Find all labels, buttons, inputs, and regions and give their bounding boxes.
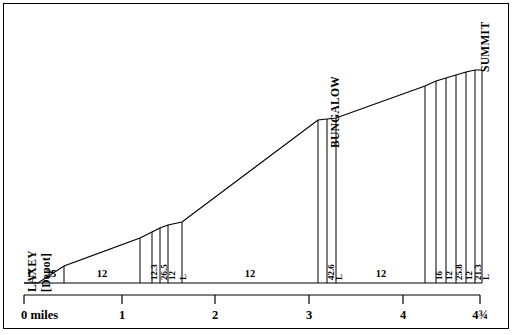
profile-drawing xyxy=(0,0,514,335)
gradient-label-6: L xyxy=(179,274,188,280)
gradient-label-5: 12 xyxy=(168,271,177,280)
gradient-label-13: 25.8 xyxy=(455,264,464,280)
gradient-label-0: L xyxy=(27,269,34,280)
profile-gradient-line xyxy=(24,70,482,283)
gradient-label-7: 12 xyxy=(245,269,256,280)
mileage-axis-ticks xyxy=(24,295,480,304)
axis-tick-label-2: 2 xyxy=(212,309,218,322)
gradient-label-1: 25 xyxy=(46,269,57,280)
gradient-label-9: L xyxy=(335,274,344,280)
axis-tick-label-5: 4¾ xyxy=(472,309,488,322)
gradient-label-2: 12 xyxy=(97,269,108,280)
axis-tick-label-1: 1 xyxy=(119,309,125,322)
place-label-bungalow: BUNGALOW xyxy=(330,76,342,148)
gradient-label-3: 12.3 xyxy=(150,264,159,280)
gradient-label-16: L xyxy=(482,274,491,280)
gradient-label-10: 12 xyxy=(376,269,387,280)
gradient-label-11: 16 xyxy=(435,271,444,280)
axis-tick-label-3: 3 xyxy=(306,309,312,322)
axis-tick-label-4: 4 xyxy=(400,309,406,322)
gradient-label-12: 12 xyxy=(445,271,454,280)
axis-tick-label-0: 0 miles xyxy=(21,309,58,322)
gradient-profile-figure: LAXEY[Depot]BUNGALOWSUMMIT L251212.326.5… xyxy=(0,0,514,335)
profile-path xyxy=(24,70,482,283)
place-label-summit: SUMMIT xyxy=(480,22,492,72)
